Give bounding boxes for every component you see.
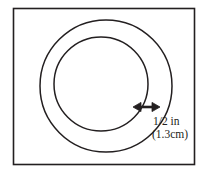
annulus-diagram: 1/2 in (1.3cm) xyxy=(0,0,201,173)
dimension-label-centimeters: (1.3cm) xyxy=(152,128,188,141)
dimension-label-inches: 1/2 in xyxy=(153,115,180,127)
figure-container: 1/2 in (1.3cm) xyxy=(0,0,201,173)
